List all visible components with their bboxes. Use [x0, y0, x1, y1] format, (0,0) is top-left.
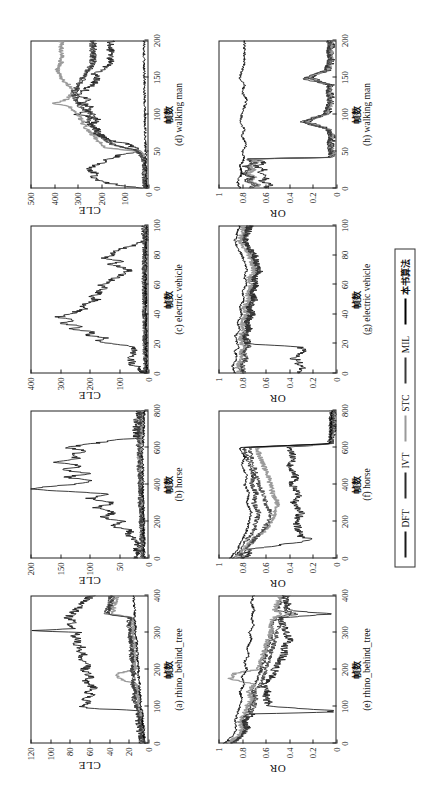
x-tick-label: 600 [151, 441, 161, 454]
x-tick-label: 20 [339, 339, 349, 348]
y-tick-label: 0.6 [260, 747, 270, 758]
subplot-caption: (d) walking man [173, 83, 183, 146]
plot-curves [218, 595, 336, 743]
x-tick [332, 594, 336, 595]
y-tick-label: 1 [213, 562, 223, 566]
x-tick [144, 113, 148, 114]
y-tick-label: 1 [213, 377, 223, 381]
legend-label: IVT [400, 452, 410, 468]
y-tick [336, 184, 337, 188]
subplot-g: 02040608010000.20.40.60.81帧数OR(g) electr… [218, 225, 336, 373]
x-tick-label: 0 [339, 371, 349, 375]
x-tick-label: 300 [339, 626, 349, 639]
y-tick [336, 739, 337, 743]
x-tick-label: 800 [339, 404, 349, 417]
y-tick [265, 739, 266, 743]
x-tick-label: 80 [151, 250, 161, 259]
y-tick-label: 0.2 [307, 192, 317, 203]
x-tick-label: 100 [151, 700, 161, 713]
legend-line-icon [404, 531, 406, 557]
x-axis-label: 帧数 [349, 660, 362, 678]
y-tick [265, 184, 266, 188]
y-tick-label: 40 [104, 747, 114, 756]
x-axis-label: 帧数 [161, 290, 174, 308]
y-tick [242, 184, 243, 188]
x-tick [332, 409, 336, 410]
x-tick [144, 187, 148, 188]
legend: DFTIVTSTCMIL本书算法 [394, 248, 415, 567]
y-tick [119, 554, 120, 558]
y-tick-label: 0.4 [284, 562, 294, 573]
y-tick [50, 739, 51, 743]
subplot-d: 0501001502000100200300400500帧数CLE(d) wal… [30, 40, 148, 188]
y-tick-label: 0.2 [307, 377, 317, 388]
y-tick [30, 739, 31, 743]
legend-item-DFT: DFT [400, 509, 410, 557]
x-tick-label: 400 [151, 589, 161, 602]
legend-line-icon [404, 357, 406, 383]
y-tick-label: 0 [331, 747, 341, 751]
legend-label: STC [400, 394, 410, 411]
y-axis-label: CLE [78, 205, 100, 217]
x-tick-label: 100 [339, 219, 349, 232]
y-tick [128, 739, 129, 743]
x-tick [144, 150, 148, 151]
x-tick-label: 50 [339, 147, 349, 156]
y-tick-label: 0.4 [284, 747, 294, 758]
y-tick [312, 369, 313, 373]
y-axis-label: CLE [78, 760, 100, 772]
x-tick [144, 39, 148, 40]
x-tick-label: 200 [151, 515, 161, 528]
y-tick [148, 184, 149, 188]
y-tick-label: 0.6 [260, 562, 270, 573]
x-tick-label: 60 [151, 280, 161, 289]
y-tick [336, 554, 337, 558]
legend-line-icon [404, 415, 406, 441]
series-DFT [240, 410, 336, 558]
y-tick [69, 739, 70, 743]
y-tick [148, 554, 149, 558]
x-tick-label: 80 [339, 250, 349, 259]
subplot-f: 020040060080000.20.40.60.81帧数OR(f) horse [218, 410, 336, 558]
x-tick [144, 594, 148, 595]
series-DFT [73, 40, 142, 188]
x-tick [332, 372, 336, 373]
legend-line-icon [404, 472, 406, 498]
x-tick [144, 520, 148, 521]
y-tick [148, 369, 149, 373]
y-tick-label: 0 [331, 192, 341, 196]
x-tick [144, 557, 148, 558]
x-tick-label: 0 [151, 186, 161, 190]
x-axis-label: 帧数 [349, 105, 362, 123]
x-tick [144, 313, 148, 314]
x-tick [144, 224, 148, 225]
x-tick [332, 187, 336, 188]
legend-label: DFT [400, 509, 410, 527]
y-tick [218, 739, 219, 743]
x-tick [144, 446, 148, 447]
x-tick-label: 0 [151, 371, 161, 375]
y-tick-label: 300 [72, 192, 82, 205]
y-tick-label: 0.4 [284, 192, 294, 203]
x-tick [332, 520, 336, 521]
y-tick [289, 369, 290, 373]
series-IVT [231, 410, 333, 558]
y-tick [119, 369, 120, 373]
x-tick [332, 224, 336, 225]
x-tick [332, 150, 336, 151]
x-tick-label: 0 [339, 556, 349, 560]
y-axis-label: OR [269, 763, 285, 775]
x-tick-label: 60 [339, 280, 349, 289]
legend-item-本书算法: 本书算法 [398, 258, 411, 324]
series-本书算法 [229, 410, 333, 558]
y-tick-label: 300 [55, 377, 65, 390]
y-tick-label: 0 [331, 377, 341, 381]
x-tick-label: 800 [151, 404, 161, 417]
y-tick [77, 184, 78, 188]
x-tick-label: 400 [151, 478, 161, 491]
y-tick-label: 120 [25, 747, 35, 760]
x-tick [332, 76, 336, 77]
y-tick [265, 369, 266, 373]
y-tick [30, 184, 31, 188]
y-tick [60, 554, 61, 558]
